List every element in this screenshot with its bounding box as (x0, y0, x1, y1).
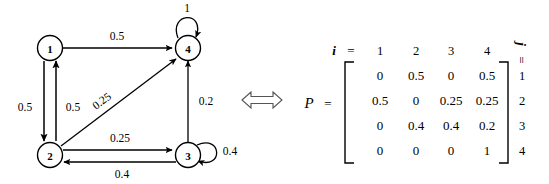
edge-label-3-to-4: 0.2 (199, 95, 214, 107)
matrix-cell-r4c3: 0 (448, 143, 455, 158)
matrix-equals-sign: = (324, 96, 331, 111)
node-1-label: 1 (47, 43, 53, 55)
equivalence-svg (228, 0, 288, 184)
edge-label-3-to-2: 0.4 (115, 168, 130, 180)
matrix-row-label-4: 4 (519, 144, 526, 158)
matrix-cell-r2c1: 0.5 (372, 93, 388, 108)
matrix-cell-r4c1: 0 (377, 143, 384, 158)
matrix-row-label-3: 3 (519, 119, 525, 133)
i-symbol: i (332, 43, 336, 58)
matrix-col-header-2: 2 (413, 44, 419, 58)
matrix-svg: i = 1 2 3 4 j = P = 0 0.5 0 (288, 0, 549, 184)
matrix-row: 0 0.5 0 0.5 1 (377, 68, 525, 83)
matrix-cell-r4c4: 1 (484, 143, 491, 158)
matrix-row-label-1: 1 (519, 69, 525, 83)
matrix-row: 0 0 0 1 4 (377, 143, 526, 158)
edge-label-2-to-1: 0.5 (66, 101, 81, 113)
markov-chain-graph: 0.5 0.5 0.5 0.25 0.25 0.4 0.2 1 (0, 0, 240, 184)
node-3[interactable]: 3 (176, 143, 201, 168)
matrix-cell-r1c3: 0 (448, 68, 455, 83)
matrix-cell-r1c2: 0.5 (408, 68, 424, 83)
node-2-label: 2 (47, 150, 53, 162)
matrix-cell-r2c2: 0 (413, 93, 420, 108)
matrix-cell-r3c1: 0 (377, 118, 384, 133)
edge-label-1-to-2: 0.5 (18, 101, 33, 113)
edge-label-1-to-4: 0.5 (110, 30, 125, 42)
edge-label-4-to-4: 1 (184, 2, 190, 14)
j-label-group: j = (514, 40, 529, 63)
matrix-row: 0.5 0 0.25 0.25 2 (372, 93, 525, 108)
matrix-cell-r2c3: 0.25 (440, 93, 463, 108)
matrix-cell-r3c3: 0.4 (443, 118, 460, 133)
node-1[interactable]: 1 (38, 36, 63, 61)
edge-label-2-to-3: 0.25 (110, 132, 130, 144)
left-bracket (345, 62, 354, 163)
j-symbol: j (514, 40, 529, 46)
matrix-col-header-4: 4 (484, 44, 491, 58)
node-2[interactable]: 2 (38, 143, 63, 168)
node-4[interactable]: 4 (176, 36, 201, 61)
double-headed-arrow-icon (242, 92, 282, 108)
matrix-row: 0 0.4 0.4 0.2 3 (377, 118, 525, 133)
matrix-col-header-3: 3 (448, 44, 454, 58)
matrix-cell-r4c2: 0 (413, 143, 420, 158)
matrix-row-label-2: 2 (519, 94, 525, 108)
matrix-cell-r2c4: 0.25 (476, 93, 499, 108)
matrix-name: P (303, 95, 313, 111)
node-3-label: 3 (185, 150, 191, 162)
matrix-col-header-1: 1 (377, 44, 383, 58)
equivalence-symbol (228, 0, 288, 184)
figure-root: 0.5 0.5 0.5 0.25 0.25 0.4 0.2 1 (0, 0, 549, 184)
node-4-label: 4 (185, 43, 191, 55)
j-equals-sign: = (514, 56, 529, 63)
i-equals-sign: = (347, 43, 354, 58)
right-bracket (499, 62, 508, 163)
matrix-cell-r3c2: 0.4 (408, 118, 425, 133)
transition-matrix: i = 1 2 3 4 j = P = 0 0.5 0 (288, 0, 549, 184)
matrix-cell-r3c4: 0.2 (479, 118, 495, 133)
matrix-cell-r1c1: 0 (377, 68, 384, 83)
matrix-cell-r1c4: 0.5 (479, 68, 495, 83)
graph-svg: 0.5 0.5 0.5 0.25 0.25 0.4 0.2 1 (0, 0, 240, 184)
